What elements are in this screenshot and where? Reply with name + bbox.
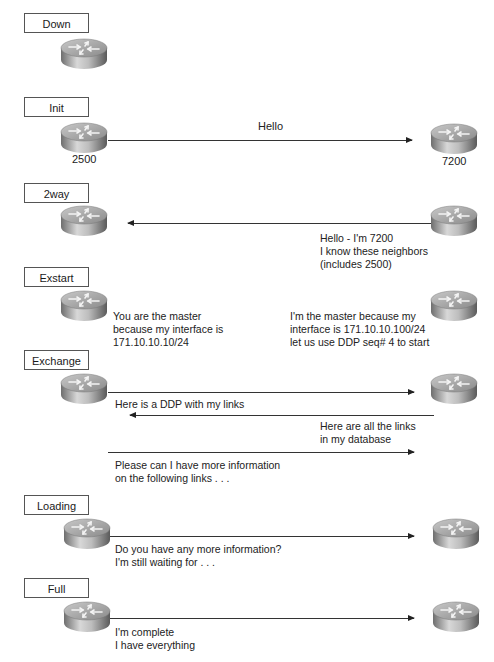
message-arrow-right xyxy=(110,618,414,619)
message-text: Hello - I'm 7200 I know these neighbors … xyxy=(320,232,428,271)
exstart-right-text: I'm the master because my interface is 1… xyxy=(290,310,429,349)
router-7200-icon xyxy=(430,290,478,322)
router-2500-icon xyxy=(60,205,108,237)
router-2500-icon xyxy=(60,38,108,70)
message-text: Hello xyxy=(258,120,283,133)
state-label-exstart: Exstart xyxy=(24,267,89,287)
state-label-down: Down xyxy=(24,13,89,33)
message-text: Here is a DDP with my links xyxy=(115,398,244,411)
state-label-full: Full xyxy=(24,578,89,598)
router-7200-icon xyxy=(430,205,478,237)
message-arrow-left xyxy=(128,223,431,224)
router-2500-icon xyxy=(60,290,108,322)
router-label-7200: 7200 xyxy=(442,155,466,168)
router-2500-icon xyxy=(60,373,108,405)
message-arrow-right xyxy=(110,536,414,537)
exstart-left-text: You are the master because my interface … xyxy=(113,310,223,349)
message-arrow-right xyxy=(108,140,412,141)
message-text: I'm complete I have everything xyxy=(115,626,195,652)
router-7200-icon xyxy=(430,373,478,405)
state-label-init: Init xyxy=(24,97,89,117)
router-7200-icon xyxy=(432,601,480,633)
state-label-loading: Loading xyxy=(24,495,89,515)
message-text: Please can I have more information on th… xyxy=(115,459,280,485)
router-label-2500: 2500 xyxy=(72,153,96,166)
state-label-exchange: Exchange xyxy=(24,350,89,370)
message-text: Here are all the links in my database xyxy=(320,420,416,446)
router-2500-icon xyxy=(63,518,111,550)
router-2500-icon xyxy=(63,601,111,633)
message-text: Do you have any more information? I'm st… xyxy=(115,543,281,569)
message-arrow-right xyxy=(108,392,414,393)
message-arrow-left xyxy=(130,415,434,416)
router-7200-icon xyxy=(430,123,478,155)
message-arrow-right xyxy=(108,452,414,453)
router-2500-icon xyxy=(60,122,108,154)
router-7200-icon xyxy=(432,518,480,550)
state-label-2way: 2way xyxy=(24,183,89,203)
